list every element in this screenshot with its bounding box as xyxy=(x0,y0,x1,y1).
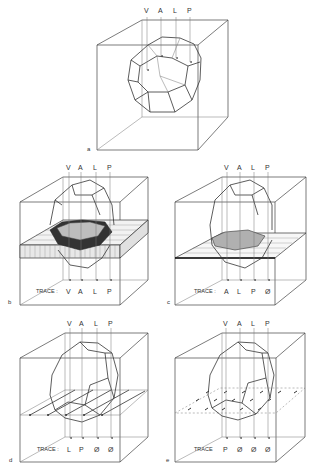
trace-value-1: V xyxy=(66,288,71,295)
probe-label-l: L xyxy=(94,320,98,327)
panel-label-a: a xyxy=(87,146,91,152)
trace-value-1: A xyxy=(224,288,229,295)
vector-field-plane-d xyxy=(20,390,148,416)
trace-label: TRACE : xyxy=(37,446,59,452)
panel-e: V A L P TRACE P Ø Ø Ø e xyxy=(166,320,305,463)
trace-value-2: Ø xyxy=(237,446,243,453)
panel-b: V A L P TRACE : V A L P b xyxy=(8,164,148,305)
trace-value-3: P xyxy=(251,288,256,295)
probe-label-a: A xyxy=(158,7,163,14)
panel-d: V A L P TRACE : L P Ø Ø d xyxy=(9,320,148,463)
probe-label-p: P xyxy=(108,320,113,327)
probe-label-v: V xyxy=(67,320,72,327)
probe-label-a: A xyxy=(79,320,84,327)
panel-a: V A L P a xyxy=(87,7,228,152)
trace-value-1: P xyxy=(223,446,228,453)
probes-e xyxy=(226,328,268,438)
panel-c: V A L P TRACE : A L P Ø c xyxy=(167,164,306,305)
probe-label-l: L xyxy=(93,164,97,171)
probe-label-a: A xyxy=(237,320,242,327)
panel-label-e: e xyxy=(166,457,170,463)
trace-label: TRACE : xyxy=(36,288,58,294)
trace-value-1: L xyxy=(67,446,71,453)
probes-c xyxy=(227,172,268,280)
cube-d xyxy=(20,333,148,462)
probes-a xyxy=(147,17,190,70)
trace-value-3: L xyxy=(93,288,97,295)
probe-label-p: P xyxy=(265,164,270,171)
probe-label-a: A xyxy=(237,164,242,171)
panel-label-b: b xyxy=(8,299,12,305)
trace-value-4: P xyxy=(107,288,112,295)
probe-label-p: P xyxy=(107,164,112,171)
probe-label-l: L xyxy=(251,320,255,327)
probe-label-p: P xyxy=(187,7,192,14)
panel-label-d: d xyxy=(9,457,12,463)
trace-value-4: Ø xyxy=(108,446,114,453)
figure-canvas: V A L P a xyxy=(0,0,318,476)
probe-label-l: L xyxy=(173,7,177,14)
probe-label-p: P xyxy=(265,320,270,327)
trace-label: TRACE xyxy=(194,446,213,452)
probe-label-v: V xyxy=(144,7,149,14)
trace-label: TRACE : xyxy=(194,288,216,294)
probe-label-v: V xyxy=(223,320,228,327)
cube-a xyxy=(97,20,228,150)
cell-polyhedron-e xyxy=(208,342,274,420)
trace-value-4: Ø xyxy=(265,446,271,453)
trace-value-3: Ø xyxy=(94,446,100,453)
probe-label-v: V xyxy=(224,164,229,171)
probe-label-v: V xyxy=(66,164,71,171)
trace-value-2: P xyxy=(79,446,84,453)
trace-value-3: Ø xyxy=(251,446,257,453)
trace-value-4: Ø xyxy=(265,288,271,295)
probe-label-a: A xyxy=(78,164,83,171)
cell-polyhedron-d xyxy=(50,342,118,422)
probe-label-l: L xyxy=(251,164,255,171)
trace-value-2: L xyxy=(237,288,241,295)
trace-value-2: A xyxy=(78,288,83,295)
panel-label-c: c xyxy=(167,299,170,305)
